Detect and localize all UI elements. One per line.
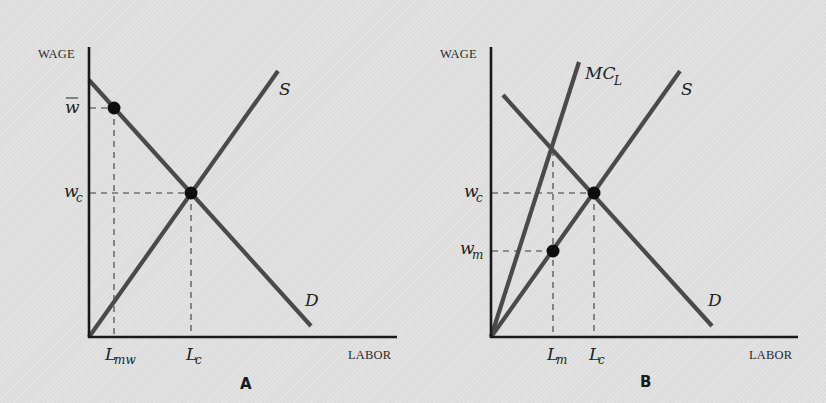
panel-b-equilibrium-point: [588, 187, 601, 200]
panel-a-demand-label: D: [304, 290, 319, 310]
svg-text:m: m: [556, 353, 567, 367]
panel-b-demand-curve: [503, 95, 712, 326]
panel-b-monopsony-point: [547, 245, 560, 258]
panel-b-marginal-cost-curve: [491, 62, 579, 337]
panel-a-supply-label: S: [279, 79, 291, 99]
panel-b-supply-label: S: [681, 79, 693, 99]
svg-text:w: w: [65, 97, 80, 117]
panel-b-demand-label: D: [707, 290, 722, 310]
panel-a-min-wage-point: [108, 102, 121, 115]
panel-a-title: A: [240, 375, 252, 393]
svg-text:L: L: [613, 74, 622, 88]
panel-b-marginal-cost-label: MC L: [584, 63, 622, 88]
panel-b-x-axis-label: LABOR: [749, 348, 793, 362]
panel-b-monopsony-labor-label: L m: [546, 344, 567, 367]
svg-text:c: c: [598, 353, 605, 367]
panel-b-title: B: [640, 373, 651, 391]
panel-a: WAGE LABOR S D w w c L mw L c A: [38, 47, 397, 393]
svg-text:c: c: [476, 191, 483, 205]
svg-text:c: c: [76, 191, 83, 205]
panel-a-x-axis-label: LABOR: [348, 348, 392, 362]
svg-text:m: m: [472, 248, 483, 262]
panel-a-competitive-labor-label: L c: [185, 344, 202, 367]
panel-a-min-wage-label: w: [65, 97, 80, 117]
panel-a-y-axis-label: WAGE: [38, 47, 75, 61]
panel-a-competitive-wage-label: w c: [64, 181, 83, 205]
panel-a-min-wage-labor-label: L mw: [104, 344, 136, 367]
svg-text:c: c: [195, 353, 202, 367]
panel-b-competitive-labor-label: L c: [588, 344, 605, 367]
panel-b-y-axis-label: WAGE: [440, 47, 477, 61]
svg-text:MC: MC: [584, 63, 615, 83]
labor-market-diagram: WAGE LABOR S D w w c L mw L c A: [0, 0, 826, 403]
panel-b-competitive-wage-label: w c: [464, 181, 483, 205]
panel-b: WAGE LABOR MC L S D w c w m L m L c B: [440, 47, 798, 391]
svg-text:mw: mw: [114, 353, 136, 367]
panel-b-monopsony-wage-label: w m: [460, 238, 483, 262]
figure-background: WAGE LABOR S D w w c L mw L c A: [0, 0, 826, 403]
panel-a-equilibrium-point: [185, 187, 198, 200]
